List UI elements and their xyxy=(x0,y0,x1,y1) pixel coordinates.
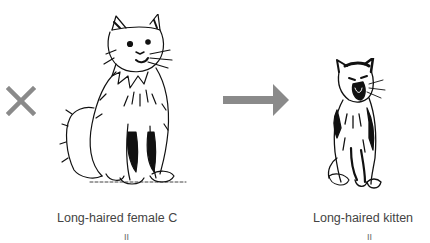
parent-marker: II xyxy=(124,232,129,242)
cross-icon xyxy=(6,86,36,116)
offspring-marker: II xyxy=(367,232,372,242)
long-haired-female-cat-illustration xyxy=(50,14,190,189)
long-haired-kitten-illustration xyxy=(325,58,390,193)
arrow-right-icon xyxy=(223,82,289,118)
offspring-label: Long-haired kitten xyxy=(313,211,413,225)
parent-label: Long-haired female C xyxy=(57,211,177,225)
